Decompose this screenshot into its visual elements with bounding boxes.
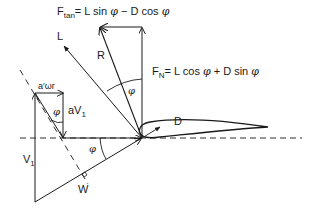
phi-label-left: φ (53, 107, 60, 117)
airfoil-shape (139, 120, 268, 138)
phi-arc-top (107, 79, 142, 91)
tangential-force-label: Ftan= L sin φ − D cos φ (57, 6, 169, 20)
freestream-label: V1 (23, 154, 35, 168)
right-angle-marker (82, 172, 87, 177)
axial-induced-label: aV1 (68, 105, 86, 119)
phi-label-bottom: φ (89, 144, 96, 154)
relative-velocity-label: W (78, 184, 88, 195)
drag-label: D (174, 116, 182, 127)
blade-element-diagram (0, 0, 310, 213)
tangential-induced-label: a′ωr (38, 82, 55, 91)
lift-label: L (57, 31, 63, 42)
resultant-force-arrow (100, 28, 142, 138)
normal-force-label: FN= L cos φ + D sin φ (152, 66, 259, 80)
resultant-label: R (97, 50, 105, 61)
phi-arc-bottom (100, 138, 106, 159)
phi-label-top: φ (128, 86, 135, 96)
